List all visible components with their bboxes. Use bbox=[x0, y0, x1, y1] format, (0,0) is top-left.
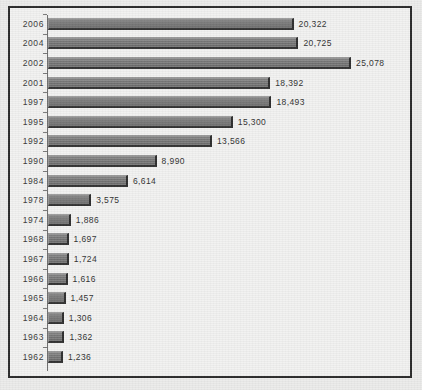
bar-value-label: 3,575 bbox=[96, 195, 119, 205]
bar-value-label: 1,306 bbox=[69, 313, 92, 323]
bar bbox=[48, 96, 271, 108]
bar-value-label: 8,990 bbox=[162, 156, 185, 166]
bar-row: 19741,886 bbox=[10, 210, 410, 230]
bar-row: 19908,990 bbox=[10, 151, 410, 171]
bar bbox=[48, 155, 157, 167]
bar-with-label: 8,990 bbox=[48, 155, 185, 167]
bar-value-label: 13,566 bbox=[217, 136, 245, 146]
bar-rows: 200620,322200420,725200225,078200118,392… bbox=[10, 14, 410, 367]
bar-with-label: 1,886 bbox=[48, 214, 99, 226]
axis-tick bbox=[43, 288, 47, 289]
bar bbox=[48, 253, 69, 265]
category-label: 2001 bbox=[10, 78, 44, 88]
bar-with-label: 25,078 bbox=[48, 57, 384, 69]
plot-area: 200620,322200420,725200225,078200118,392… bbox=[10, 8, 410, 376]
bar-with-label: 1,236 bbox=[48, 351, 91, 363]
bar bbox=[48, 331, 64, 343]
bar-value-label: 15,300 bbox=[238, 117, 266, 127]
bar-value-label: 6,614 bbox=[133, 176, 156, 186]
axis-tick bbox=[43, 308, 47, 309]
bar-row: 200225,078 bbox=[10, 53, 410, 73]
category-label: 1995 bbox=[10, 117, 44, 127]
chart-frame: 200620,322200420,725200225,078200118,392… bbox=[8, 6, 412, 378]
bar-with-label: 20,725 bbox=[48, 37, 332, 49]
bar-value-label: 1,457 bbox=[71, 293, 94, 303]
axis-tick bbox=[43, 347, 47, 348]
bar-value-label: 1,697 bbox=[74, 234, 97, 244]
category-label: 1990 bbox=[10, 156, 44, 166]
category-label: 1962 bbox=[10, 352, 44, 362]
bar-row: 19661,616 bbox=[10, 269, 410, 289]
bar-value-label: 1,236 bbox=[68, 352, 91, 362]
bar-with-label: 15,300 bbox=[48, 116, 266, 128]
bar-row: 200620,322 bbox=[10, 14, 410, 34]
bar-with-label: 13,566 bbox=[48, 135, 245, 147]
axis-tick bbox=[43, 190, 47, 191]
bar-value-label: 25,078 bbox=[356, 58, 384, 68]
bar-with-label: 1,306 bbox=[48, 312, 92, 324]
bar-value-label: 1,362 bbox=[69, 332, 92, 342]
bar-with-label: 3,575 bbox=[48, 194, 119, 206]
bar-value-label: 1,886 bbox=[76, 215, 99, 225]
chart-page: 200620,322200420,725200225,078200118,392… bbox=[0, 0, 422, 390]
category-label: 1963 bbox=[10, 332, 44, 342]
bar-value-label: 20,322 bbox=[299, 19, 327, 29]
axis-tick bbox=[43, 34, 47, 35]
category-label: 1966 bbox=[10, 274, 44, 284]
bar-with-label: 18,493 bbox=[48, 96, 305, 108]
figure-caption bbox=[8, 381, 412, 390]
category-label: 1974 bbox=[10, 215, 44, 225]
bar-row: 199515,300 bbox=[10, 112, 410, 132]
category-label: 1997 bbox=[10, 97, 44, 107]
bar bbox=[48, 292, 66, 304]
axis-tick bbox=[43, 92, 47, 93]
bar-row: 200420,725 bbox=[10, 34, 410, 54]
bar bbox=[48, 77, 270, 89]
bar-value-label: 1,616 bbox=[73, 274, 96, 284]
axis-tick bbox=[43, 171, 47, 172]
bar-row: 199213,566 bbox=[10, 132, 410, 152]
category-label: 2004 bbox=[10, 38, 44, 48]
bar bbox=[48, 135, 212, 147]
bar bbox=[48, 194, 91, 206]
bar-with-label: 1,616 bbox=[48, 273, 96, 285]
bar bbox=[48, 214, 71, 226]
category-label: 1984 bbox=[10, 176, 44, 186]
axis-tick bbox=[43, 73, 47, 74]
bar-row: 19651,457 bbox=[10, 288, 410, 308]
axis-tick bbox=[43, 132, 47, 133]
axis-tick bbox=[43, 210, 47, 211]
category-label: 2006 bbox=[10, 19, 44, 29]
bar-row: 19846,614 bbox=[10, 171, 410, 191]
bar bbox=[48, 273, 68, 285]
category-label: 1964 bbox=[10, 313, 44, 323]
bar-row: 200118,392 bbox=[10, 73, 410, 93]
bar-with-label: 6,614 bbox=[48, 175, 156, 187]
bar-row: 19783,575 bbox=[10, 190, 410, 210]
bar bbox=[48, 18, 294, 30]
bar bbox=[48, 57, 351, 69]
bar-value-label: 18,493 bbox=[276, 97, 304, 107]
bar-row: 19681,697 bbox=[10, 230, 410, 250]
bar bbox=[48, 116, 233, 128]
axis-tick bbox=[43, 112, 47, 113]
category-label: 1967 bbox=[10, 254, 44, 264]
bar-row: 199718,493 bbox=[10, 92, 410, 112]
axis-tick bbox=[43, 269, 47, 270]
bar bbox=[48, 312, 64, 324]
bar-row: 19641,306 bbox=[10, 308, 410, 328]
bar-value-label: 20,725 bbox=[303, 38, 331, 48]
bar-with-label: 20,322 bbox=[48, 18, 327, 30]
bar-with-label: 1,362 bbox=[48, 331, 93, 343]
category-label: 1965 bbox=[10, 293, 44, 303]
bar-with-label: 1,457 bbox=[48, 292, 94, 304]
bar-row: 19621,236 bbox=[10, 347, 410, 367]
bar-with-label: 18,392 bbox=[48, 77, 304, 89]
axis-tick bbox=[43, 151, 47, 152]
bar bbox=[48, 37, 298, 49]
category-label: 1992 bbox=[10, 136, 44, 146]
bar bbox=[48, 233, 69, 245]
bar-with-label: 1,724 bbox=[48, 253, 97, 265]
bar-row: 19671,724 bbox=[10, 249, 410, 269]
bar bbox=[48, 175, 128, 187]
